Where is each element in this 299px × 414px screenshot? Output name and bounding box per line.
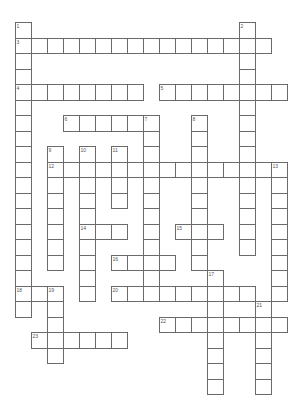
crossword-cell[interactable] [47, 208, 64, 225]
crossword-cell[interactable] [15, 301, 32, 318]
crossword-cell[interactable] [175, 286, 192, 303]
crossword-cell[interactable] [143, 146, 160, 163]
crossword-cell[interactable]: 17 [207, 270, 224, 287]
crossword-cell[interactable] [47, 332, 64, 349]
crossword-cell[interactable] [175, 317, 192, 334]
crossword-cell[interactable] [143, 286, 160, 303]
crossword-cell[interactable] [143, 177, 160, 194]
crossword-cell[interactable] [239, 100, 256, 117]
crossword-cell[interactable] [79, 177, 96, 194]
crossword-cell[interactable] [47, 177, 64, 194]
crossword-cell[interactable] [111, 115, 128, 132]
crossword-cell[interactable] [239, 317, 256, 334]
crossword-cell[interactable] [47, 301, 64, 318]
crossword-cell[interactable] [239, 193, 256, 210]
crossword-cell[interactable] [79, 239, 96, 256]
crossword-cell[interactable]: 15 [175, 224, 192, 241]
crossword-cell[interactable] [95, 224, 112, 241]
crossword-cell[interactable] [207, 286, 224, 303]
crossword-cell[interactable] [223, 286, 240, 303]
crossword-cell[interactable]: 11 [111, 146, 128, 163]
crossword-cell[interactable] [47, 193, 64, 210]
crossword-cell[interactable] [207, 317, 224, 334]
crossword-cell[interactable]: 13 [271, 162, 288, 179]
crossword-cell[interactable]: 16 [111, 255, 128, 272]
crossword-cell[interactable] [271, 193, 288, 210]
crossword-cell[interactable] [31, 84, 48, 101]
crossword-cell[interactable] [143, 162, 160, 179]
crossword-cell[interactable] [191, 38, 208, 55]
crossword-cell[interactable] [239, 286, 256, 303]
crossword-cell[interactable] [175, 162, 192, 179]
crossword-cell[interactable] [95, 38, 112, 55]
crossword-cell[interactable] [207, 363, 224, 380]
crossword-cell[interactable] [207, 162, 224, 179]
crossword-cell[interactable] [239, 162, 256, 179]
crossword-cell[interactable] [143, 193, 160, 210]
crossword-cell[interactable] [15, 270, 32, 287]
crossword-cell[interactable] [63, 38, 80, 55]
crossword-cell[interactable]: 2 [239, 22, 256, 39]
crossword-cell[interactable] [111, 38, 128, 55]
crossword-cell[interactable] [239, 115, 256, 132]
crossword-cell[interactable] [63, 162, 80, 179]
crossword-cell[interactable] [271, 270, 288, 287]
crossword-cell[interactable] [15, 115, 32, 132]
crossword-cell[interactable] [191, 162, 208, 179]
crossword-cell[interactable] [143, 131, 160, 148]
crossword-cell[interactable] [143, 38, 160, 55]
crossword-cell[interactable] [15, 255, 32, 272]
crossword-cell[interactable] [95, 115, 112, 132]
crossword-cell[interactable] [271, 84, 288, 101]
crossword-cell[interactable] [47, 38, 64, 55]
crossword-cell[interactable] [79, 270, 96, 287]
crossword-cell[interactable]: 8 [191, 115, 208, 132]
crossword-cell[interactable] [271, 177, 288, 194]
crossword-cell[interactable] [143, 239, 160, 256]
crossword-cell[interactable] [239, 146, 256, 163]
crossword-cell[interactable]: 23 [31, 332, 48, 349]
crossword-cell[interactable] [15, 53, 32, 70]
crossword-cell[interactable] [175, 38, 192, 55]
crossword-cell[interactable] [111, 193, 128, 210]
crossword-cell[interactable] [95, 332, 112, 349]
crossword-cell[interactable] [47, 239, 64, 256]
crossword-cell[interactable] [15, 239, 32, 256]
crossword-cell[interactable] [239, 131, 256, 148]
crossword-cell[interactable] [255, 348, 272, 365]
crossword-cell[interactable] [79, 208, 96, 225]
crossword-cell[interactable] [47, 317, 64, 334]
crossword-cell[interactable] [127, 162, 144, 179]
crossword-cell[interactable] [111, 177, 128, 194]
crossword-cell[interactable] [79, 84, 96, 101]
crossword-cell[interactable] [47, 255, 64, 272]
crossword-cell[interactable] [271, 239, 288, 256]
crossword-cell[interactable] [175, 84, 192, 101]
crossword-cell[interactable] [63, 332, 80, 349]
crossword-cell[interactable] [191, 317, 208, 334]
crossword-cell[interactable]: 4 [15, 84, 32, 101]
crossword-cell[interactable] [15, 193, 32, 210]
crossword-cell[interactable] [143, 208, 160, 225]
crossword-cell[interactable] [15, 208, 32, 225]
crossword-cell[interactable]: 1 [15, 22, 32, 39]
crossword-cell[interactable] [255, 162, 272, 179]
crossword-cell[interactable]: 14 [79, 224, 96, 241]
crossword-cell[interactable] [15, 162, 32, 179]
crossword-cell[interactable] [191, 177, 208, 194]
crossword-cell[interactable] [191, 84, 208, 101]
crossword-cell[interactable] [271, 255, 288, 272]
crossword-cell[interactable] [207, 301, 224, 318]
crossword-cell[interactable]: 6 [63, 115, 80, 132]
crossword-cell[interactable] [79, 115, 96, 132]
crossword-cell[interactable] [271, 224, 288, 241]
crossword-cell[interactable] [191, 224, 208, 241]
crossword-cell[interactable] [255, 363, 272, 380]
crossword-cell[interactable] [79, 255, 96, 272]
crossword-cell[interactable] [111, 84, 128, 101]
crossword-cell[interactable] [255, 379, 272, 396]
crossword-cell[interactable] [63, 84, 80, 101]
crossword-cell[interactable]: 5 [159, 84, 176, 101]
crossword-cell[interactable] [255, 332, 272, 349]
crossword-cell[interactable] [143, 255, 160, 272]
